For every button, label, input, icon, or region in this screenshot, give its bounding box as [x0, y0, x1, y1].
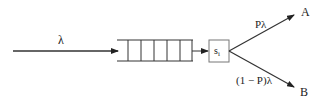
- dest-label-b: B: [300, 85, 308, 99]
- arrival-rate-label: λ: [58, 33, 64, 47]
- queue-buffer: [117, 40, 193, 61]
- server-label-sub: i: [218, 50, 220, 58]
- rate-label-b: (1 − P)λ: [236, 74, 273, 87]
- rate-label-a: Pλ: [255, 18, 267, 30]
- dest-label-a: A: [301, 5, 310, 19]
- queue-diagram: λ si Pλ A (1 − P)λ B: [0, 0, 330, 100]
